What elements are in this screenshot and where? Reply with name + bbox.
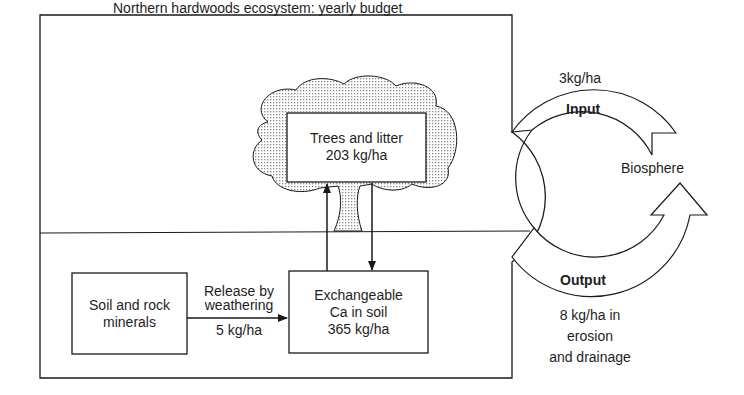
exchangeable-line2: Ca in soil [289,304,428,321]
biosphere-label: Biosphere [621,160,684,177]
input-arrow [512,90,676,155]
trees-name: Trees and litter [287,130,426,147]
output-detail: 8 kg/ha in erosion and drainage [535,305,645,368]
weathering-value: 5 kg/ha [189,322,289,339]
exchangeable-value: 365 kg/ha [289,321,428,338]
output-line1: 8 kg/ha in [535,305,645,326]
exchangeable-line1: Exchangeable [289,287,428,304]
output-line3: and drainage [535,347,645,368]
soil-rock-label: Soil and rock minerals [72,297,187,331]
soil-rock-line1: Soil and rock [72,297,187,314]
weathering-label: Release by weathering [189,283,289,314]
output-arrow [512,183,707,297]
trees-label: Trees and litter 203 kg/ha [287,130,426,164]
ground-line [40,231,530,233]
input-label: Input [566,101,600,118]
exchangeable-label: Exchangeable Ca in soil 365 kg/ha [289,287,428,338]
soil-rock-line2: minerals [72,314,187,331]
output-label: Output [560,272,606,289]
diagram-title: Northern hardwoods ecosystem: yearly bud… [113,0,402,17]
trees-value: 203 kg/ha [287,147,426,164]
biosphere-ring [516,130,534,228]
input-value: 3kg/ha [559,70,601,87]
output-line2: erosion [535,326,645,347]
